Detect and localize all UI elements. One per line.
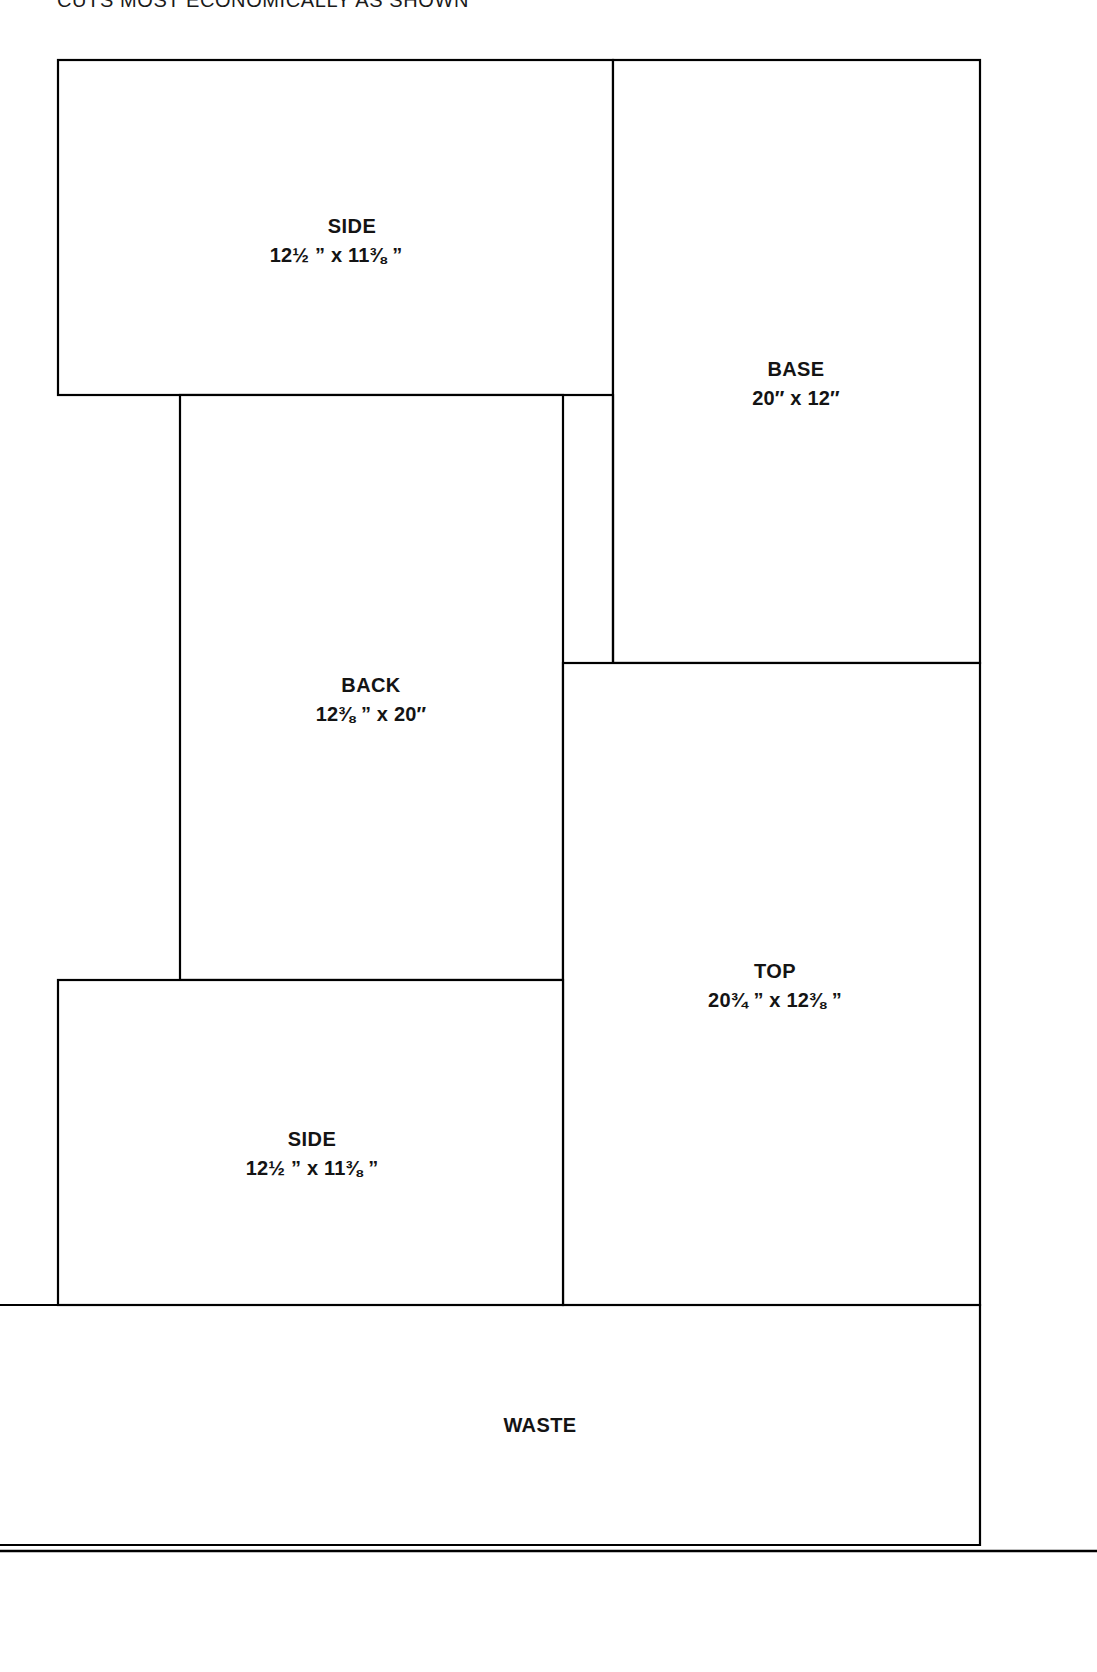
panel-top: TOP 20¾ ” x 12⅜ ” (563, 663, 980, 1305)
panel-side-bottom-dims: 12½ ” x 11⅜ ” (246, 1157, 379, 1179)
panel-waste: WASTE (0, 1305, 980, 1545)
panel-top-label: TOP (754, 960, 796, 982)
offcut-strip-path (563, 395, 613, 663)
panel-base: BASE 20″ x 12″ (613, 60, 980, 663)
panel-base-label: BASE (767, 358, 824, 380)
cutting-layout-page: CUTS MOST ECONOMICALLY AS SHOWN SIDE 12½… (0, 0, 1097, 1672)
panel-base-dims: 20″ x 12″ (752, 387, 840, 409)
panel-back-dims: 12⅜ ” x 20″ (316, 703, 427, 725)
panel-back-label: BACK (341, 674, 401, 696)
panel-side-top-dims: 12½ ” x 11⅜ ” (270, 244, 403, 266)
panel-side-top-label: SIDE (328, 215, 376, 237)
panel-side-top: SIDE 12½ ” x 11⅜ ” (58, 60, 613, 395)
cutting-layout-diagram: SIDE 12½ ” x 11⅜ ” BASE 20″ x 12″ BACK 1… (0, 0, 1097, 1672)
panel-waste-outline (0, 1305, 980, 1545)
panel-top-dims: 20¾ ” x 12⅜ ” (708, 989, 842, 1011)
panel-side-bottom-label: SIDE (288, 1128, 336, 1150)
panel-back: BACK 12⅜ ” x 20″ (180, 395, 613, 980)
panel-top-rect (563, 663, 980, 1305)
panel-waste-label: WASTE (503, 1414, 576, 1436)
panel-side-bottom: SIDE 12½ ” x 11⅜ ” (58, 980, 563, 1305)
